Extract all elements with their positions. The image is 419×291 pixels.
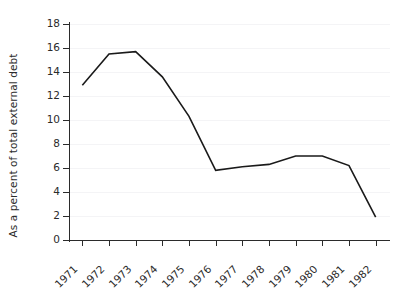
series-line — [82, 52, 375, 218]
series-line-layer — [0, 0, 419, 291]
line-chart: As a percent of total external debt 0246… — [0, 0, 419, 291]
